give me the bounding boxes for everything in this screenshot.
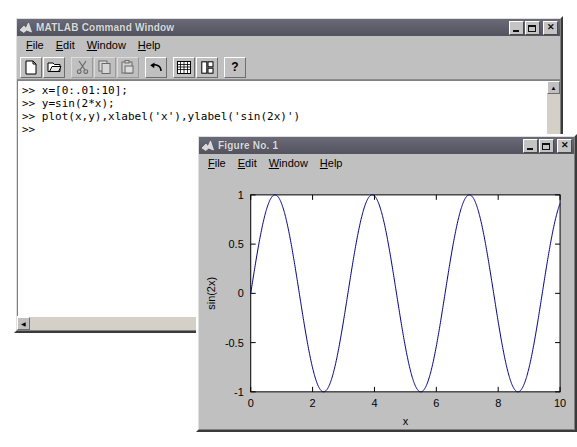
menu-help[interactable]: Help: [133, 38, 168, 52]
figure-window-title: Figure No. 1: [218, 140, 523, 151]
figure-window-controls[interactable]: ✕: [523, 139, 572, 153]
figure-window-titlebar[interactable]: Figure No. 1 ✕: [199, 137, 574, 154]
scroll-left-arrow[interactable]: ◀: [17, 317, 30, 330]
scroll-up-arrow[interactable]: ▲: [547, 81, 560, 94]
axes-box: [251, 195, 560, 392]
command-window-titlebar[interactable]: MATLAB Command Window ✕: [17, 19, 560, 36]
minimize-button[interactable]: [509, 21, 524, 35]
sine-plot[interactable]: 0246810-1-0.500.51xsin(2x): [199, 173, 574, 428]
open-file-icon[interactable]: [43, 57, 65, 78]
desktop: MATLAB Command Window ✕ File Edit Window…: [0, 0, 577, 447]
menu-window[interactable]: Window: [264, 156, 315, 170]
matlab-icon: [201, 139, 215, 153]
menu-file[interactable]: File: [21, 38, 51, 52]
menu-help[interactable]: Help: [315, 156, 350, 170]
command-window-title: MATLAB Command Window: [36, 22, 509, 33]
minimize-button[interactable]: [523, 139, 538, 153]
transcript-line: >> y=sin(2*x);: [22, 97, 115, 110]
path-browser-icon[interactable]: [196, 57, 218, 78]
matlab-icon: [19, 21, 33, 35]
x-tick-label: 10: [554, 397, 566, 409]
x-tick-label: 8: [495, 397, 501, 409]
help-question-icon[interactable]: ?: [224, 57, 246, 78]
command-window-controls[interactable]: ✕: [509, 21, 558, 35]
transcript-line: >> plot(x,y),xlabel('x'),ylabel('sin(2x)…: [22, 110, 300, 123]
transcript-line: >> x=[0:.01:10];: [22, 84, 128, 97]
close-button[interactable]: ✕: [543, 21, 558, 35]
y-axis-label: sin(2x): [205, 277, 217, 310]
menu-window[interactable]: Window: [82, 38, 133, 52]
new-file-icon[interactable]: [20, 57, 42, 78]
command-window-menubar[interactable]: File Edit Window Help: [17, 36, 560, 55]
workspace-icon[interactable]: [173, 57, 195, 78]
close-button[interactable]: ✕: [557, 139, 572, 153]
x-tick-label: 6: [433, 397, 439, 409]
x-tick-label: 2: [310, 397, 316, 409]
x-axis-label: x: [403, 415, 409, 427]
figure-window-menubar[interactable]: File Edit Window Help: [199, 154, 574, 173]
menu-edit[interactable]: Edit: [51, 38, 82, 52]
cut-icon[interactable]: [71, 57, 93, 78]
command-window-toolbar[interactable]: ?: [17, 55, 560, 80]
paste-icon[interactable]: [117, 57, 139, 78]
y-tick-label: 0: [238, 287, 244, 299]
figure-window[interactable]: Figure No. 1 ✕ File Edit Window Help 024…: [196, 134, 577, 432]
maximize-button[interactable]: [539, 139, 554, 153]
y-tick-label: -1: [234, 386, 244, 398]
y-tick-label: 1: [238, 189, 244, 201]
menu-file[interactable]: File: [203, 156, 233, 170]
y-tick-label: 0.5: [229, 238, 244, 250]
maximize-button[interactable]: [525, 21, 540, 35]
y-tick-label: -0.5: [225, 337, 244, 349]
transcript-line: >>: [22, 123, 35, 136]
copy-icon[interactable]: [94, 57, 116, 78]
menu-edit[interactable]: Edit: [233, 156, 264, 170]
x-tick-label: 4: [371, 397, 377, 409]
figure-plot-area[interactable]: 0246810-1-0.500.51xsin(2x): [199, 173, 574, 429]
undo-icon[interactable]: [145, 57, 167, 78]
x-tick-label: 0: [248, 397, 254, 409]
